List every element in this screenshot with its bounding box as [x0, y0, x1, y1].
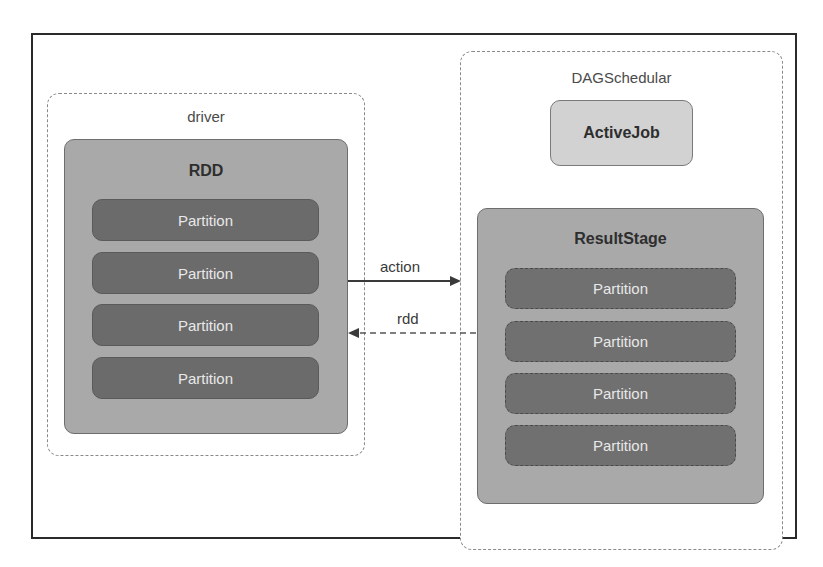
rdd-label: rdd — [397, 310, 419, 327]
resultstage-partition: Partition — [505, 268, 736, 309]
rdd-partition: Partition — [92, 357, 319, 399]
resultstage-partition: Partition — [505, 373, 736, 414]
rdd-partition: Partition — [92, 252, 319, 294]
dagschedular-label: DAGSchedular — [461, 69, 782, 86]
action-label: action — [380, 258, 420, 275]
resultstage-partition: Partition — [505, 425, 736, 466]
resultstage-title: ResultStage — [478, 230, 763, 248]
resultstage-partition: Partition — [505, 321, 736, 362]
driver-label: driver — [48, 108, 364, 125]
rdd-partition: Partition — [92, 304, 319, 346]
rdd-title: RDD — [65, 162, 347, 180]
rdd-partition: Partition — [92, 199, 319, 241]
activejob-box: ActiveJob — [550, 100, 693, 166]
